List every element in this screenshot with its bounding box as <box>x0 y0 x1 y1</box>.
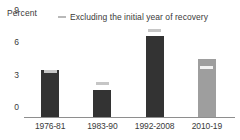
legend-swatch-icon <box>58 16 66 19</box>
excluding-initial-year-marker <box>44 70 57 73</box>
excluding-initial-year-marker <box>200 66 213 69</box>
bar <box>41 70 59 117</box>
y-axis-tick-label: 3 <box>14 70 19 80</box>
bar-chart: Percent Excluding the initial year of re… <box>0 0 240 140</box>
bar-group <box>93 20 111 117</box>
y-axis-tick-label: 6 <box>14 37 19 47</box>
y-axis-unit-label: Percent <box>7 8 37 18</box>
x-axis-tick-label: 1992-2008 <box>129 121 181 131</box>
y-axis-tick-label: 9 <box>14 5 19 15</box>
bar <box>146 36 164 117</box>
x-axis-line <box>24 117 235 118</box>
x-axis-tick-label: 1976-81 <box>24 121 76 131</box>
excluding-initial-year-marker <box>148 29 161 32</box>
x-axis-tick-label: 2010-19 <box>181 121 233 131</box>
y-axis-tick-label: 0 <box>14 102 19 112</box>
plot-area: 0369 <box>24 20 233 117</box>
bar-group <box>198 20 216 117</box>
bar-group <box>41 20 59 117</box>
excluding-initial-year-marker <box>96 82 109 85</box>
x-axis-tick-label: 1983-90 <box>76 121 128 131</box>
bar <box>93 90 111 117</box>
bar-group <box>146 20 164 117</box>
